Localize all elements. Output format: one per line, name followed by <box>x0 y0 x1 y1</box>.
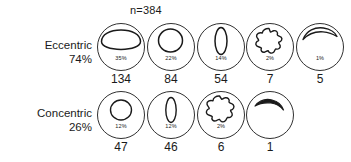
irregular-star-blob-icon <box>245 22 295 72</box>
cell-count: 84 <box>146 72 196 86</box>
wide-flat-oval-icon <box>96 22 146 72</box>
row-label-concentric: Concentric 26% <box>0 106 92 134</box>
crescent-arc-icon <box>295 22 345 72</box>
cell-concentric-3: 2% 6 <box>196 90 246 156</box>
row-label-concentric-name: Concentric <box>37 107 92 119</box>
cell-percent: 14% <box>196 55 246 61</box>
cell-count: 46 <box>146 140 196 154</box>
cell-count: 6 <box>196 140 246 154</box>
cell-count: 5 <box>295 72 345 86</box>
cell-count: 1 <box>245 140 295 154</box>
cell-count: 7 <box>245 72 295 86</box>
round-oval-icon <box>96 90 146 140</box>
cell-concentric-2: 12% 46 <box>146 90 196 156</box>
crescent-arc-icon <box>245 90 295 140</box>
cell-concentric-4: 1 <box>245 90 295 156</box>
row-label-concentric-percent: 26% <box>0 120 92 134</box>
narrow-vertical-oval-icon <box>196 22 246 72</box>
cell-eccentric-2: 22% 84 <box>146 22 196 88</box>
cell-percent: 1% <box>295 55 345 61</box>
cell-percent: 22% <box>146 55 196 61</box>
irregular-star-blob-icon <box>196 90 246 140</box>
cell-percent: 12% <box>96 123 146 129</box>
cell-concentric-1: 12% 47 <box>96 90 146 156</box>
cell-percent: 35% <box>96 55 146 61</box>
row-label-eccentric-name: Eccentric <box>45 39 92 51</box>
row-label-eccentric: Eccentric 74% <box>0 38 92 66</box>
round-oval-icon <box>146 22 196 72</box>
figure-canvas: n=384 Eccentric 74% Concentric 26% 35% 1… <box>0 0 351 162</box>
cell-count: 134 <box>96 72 146 86</box>
cell-percent: 2% <box>196 123 246 129</box>
cell-percent: 12% <box>146 123 196 129</box>
sample-size-label: n=384 <box>130 4 162 16</box>
cell-eccentric-3: 14% 54 <box>196 22 246 88</box>
cell-percent: 2% <box>245 55 295 61</box>
cell-count: 54 <box>196 72 246 86</box>
row-label-eccentric-percent: 74% <box>0 52 92 66</box>
cell-eccentric-5: 1% 5 <box>295 22 345 88</box>
cell-eccentric-4: 2% 7 <box>245 22 295 88</box>
narrow-vertical-oval-icon <box>146 90 196 140</box>
cell-eccentric-1: 35% 134 <box>96 22 146 88</box>
cell-count: 47 <box>96 140 146 154</box>
